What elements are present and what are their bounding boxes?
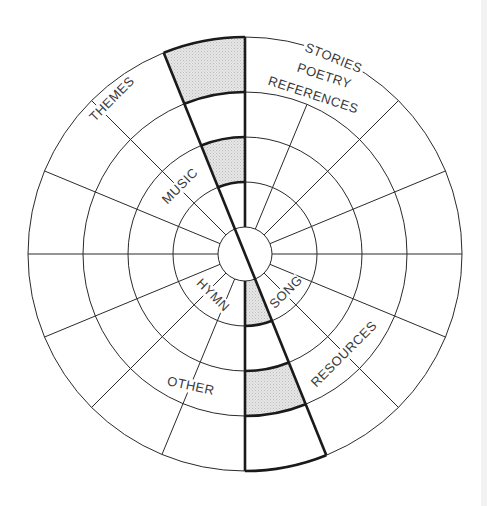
label-music: MUSIC [159, 165, 201, 207]
label-song: SONG [266, 272, 305, 311]
spoke [255, 104, 307, 229]
wedge-arc-bottom [245, 455, 326, 471]
page-edge [481, 0, 487, 506]
spoke [45, 264, 221, 337]
label-hymn: HYMN [194, 275, 233, 314]
concentric-wheel-diagram: STORIESPOETRYREFERENCESTHEMESMUSICSONGHY… [0, 0, 487, 506]
spoke [92, 101, 226, 235]
spoke [264, 101, 398, 235]
spoke [270, 171, 446, 244]
label-other: OTHER [166, 373, 216, 398]
label-resources: RESOURCES [308, 318, 380, 390]
